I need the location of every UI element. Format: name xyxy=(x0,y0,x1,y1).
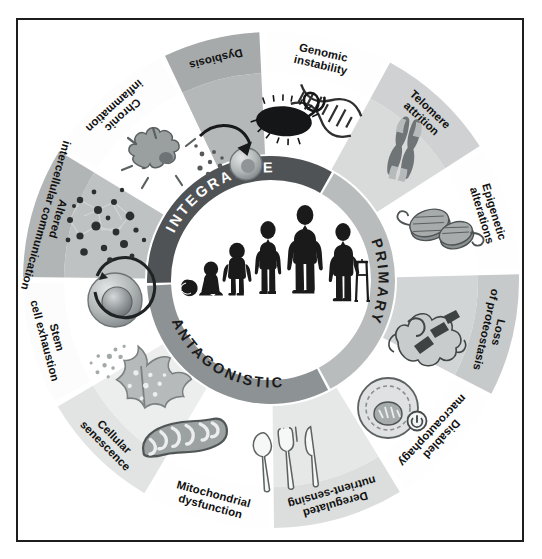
hallmarks-of-aging-wheel: GenomicinstabilityTelomereattritionEpige… xyxy=(0,0,542,559)
